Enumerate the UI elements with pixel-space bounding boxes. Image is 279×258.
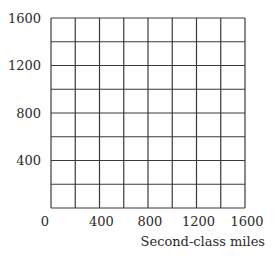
grid [51, 18, 245, 208]
y-tick-label: 400 [16, 153, 41, 168]
x-tick-label: 1200 [182, 214, 215, 229]
y-tick-label: 800 [16, 106, 41, 121]
y-axis-ticks: 40080012001600 [8, 11, 41, 169]
x-axis-title: Second-class miles [141, 234, 265, 249]
x-tick-label: 1600 [230, 214, 263, 229]
x-tick-label: 800 [138, 214, 163, 229]
chart: 40080012001600 040080012001600 Second-cl… [0, 0, 279, 258]
y-tick-label: 1200 [8, 58, 41, 73]
y-tick-label: 1600 [8, 11, 41, 26]
x-tick-label: 0 [41, 214, 49, 229]
x-axis-ticks: 040080012001600 [41, 214, 264, 229]
x-tick-label: 400 [89, 214, 114, 229]
